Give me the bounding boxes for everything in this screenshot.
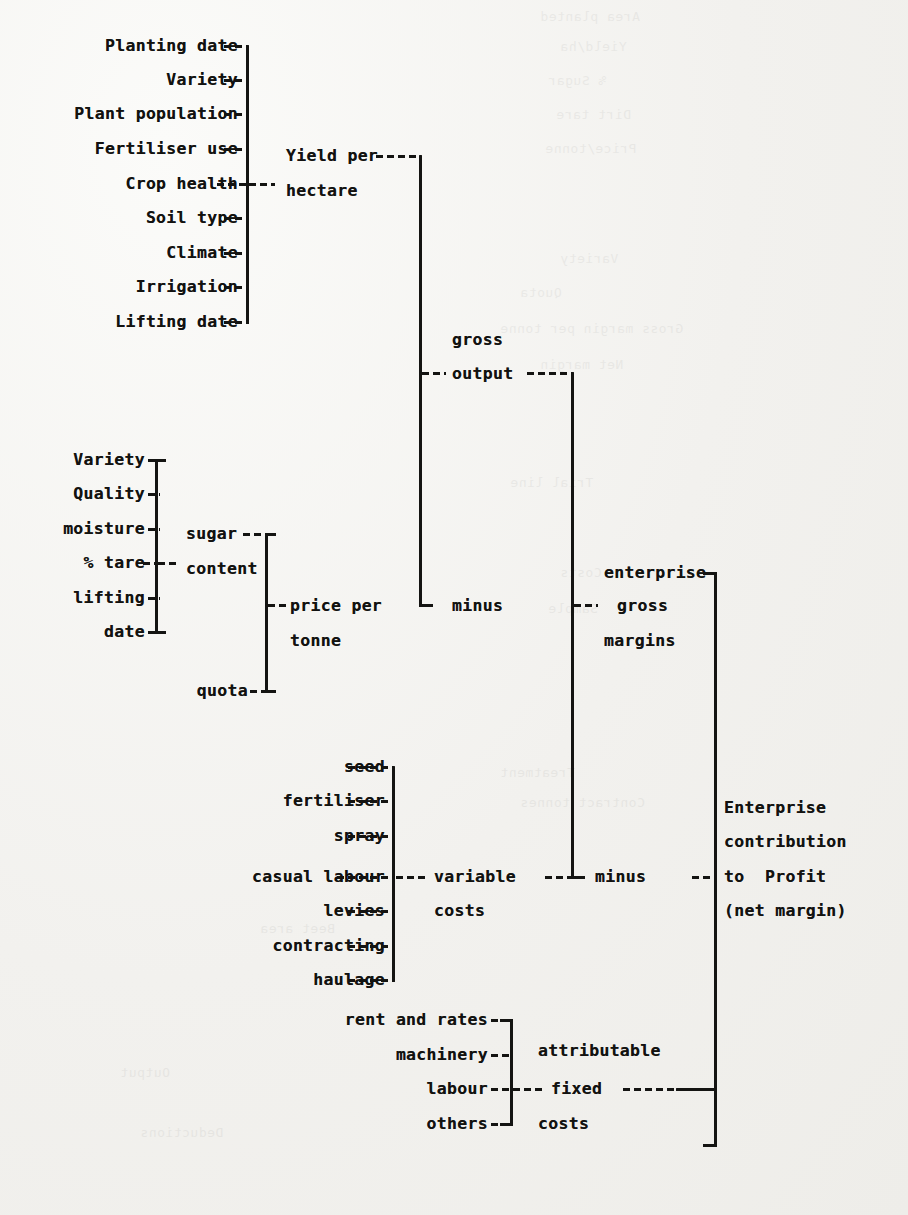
- corner-fixed-top: [500, 1019, 513, 1022]
- node-fertiliser-use: Fertiliser use: [95, 139, 238, 159]
- bracket-price-inputs: [265, 533, 268, 693]
- ghost-line: Area planted: [540, 4, 640, 30]
- node-costs-fixed: costs: [538, 1114, 589, 1134]
- corner-gross-output-bottom: [571, 876, 585, 879]
- node-variable: variable: [434, 867, 516, 887]
- node-rent-and-rates: rent and rates: [345, 1010, 488, 1030]
- bracket-net-margin: [714, 572, 717, 1147]
- ghost-line: Variety: [560, 246, 618, 272]
- leader-gross-output-out: [527, 372, 573, 375]
- ghost-line: Gross margin per tonne: [500, 316, 683, 342]
- node-tonne: tonne: [290, 631, 341, 651]
- node-price-per: price per: [290, 596, 382, 616]
- leader-fixed-to-net-margin: [623, 1088, 683, 1091]
- node-enterprise: enterprise: [604, 563, 706, 583]
- leader-irrigation: [224, 286, 248, 289]
- corner-price-bottom: [265, 690, 276, 693]
- diagram-page: Area planted Yield/ha % Sugar Dirt tare …: [0, 0, 908, 1215]
- node-quality: Quality: [73, 484, 145, 504]
- node-plant-population: Plant population: [74, 104, 238, 124]
- leader-yield-per-out: [376, 155, 421, 158]
- leader-haulage: [348, 979, 394, 982]
- leader-enterprise-gm-in: [574, 604, 598, 607]
- corner-quality-bottom: [155, 631, 166, 634]
- node-irrigation: Irrigation: [136, 277, 238, 297]
- leader-seed: [348, 766, 394, 769]
- spine-gross-output-to-minus: [571, 372, 574, 879]
- node-machinery: machinery: [396, 1045, 488, 1065]
- node-minus-lower: minus: [595, 867, 646, 887]
- corner-net-margin-top: [703, 572, 717, 575]
- spine-yield-to-gross-output: [419, 155, 422, 607]
- node-variety-quality: Variety: [73, 450, 145, 470]
- leader-price-bracket-out: [268, 604, 290, 607]
- node-net-margin-line-1: Enterprise: [724, 798, 826, 818]
- leader-sugar-content-out: [243, 533, 267, 536]
- connector-fixed-to-spine: [676, 1088, 716, 1091]
- node-planting-date: Planting date: [105, 36, 238, 56]
- leader-net-margin-out: [692, 876, 716, 879]
- corner-quality-top: [155, 459, 166, 462]
- ghost-line: Costs: [560, 560, 602, 586]
- node-date: date: [104, 622, 145, 642]
- node-minus-upper: minus: [452, 596, 503, 616]
- node-net-margin-line-2: contribution: [724, 832, 847, 852]
- node-labour: labour: [427, 1079, 488, 1099]
- leader-fixed-bracket-out: [513, 1088, 545, 1091]
- ghost-line: Output: [120, 1060, 170, 1086]
- ghost-line: Trial line: [510, 470, 593, 496]
- ghost-line: Treatment: [500, 760, 575, 786]
- node-net-margin-line-4: (net margin): [724, 901, 847, 921]
- leader-planting-date: [224, 45, 248, 48]
- node-sugar: sugar: [186, 524, 237, 544]
- leader-variable-costs-out: [396, 876, 428, 879]
- ghost-line: Contract tonnes: [520, 790, 645, 816]
- node-attributable: attributable: [538, 1041, 661, 1061]
- leader-lifting: [148, 597, 160, 600]
- leader-spray: [348, 835, 394, 838]
- bracket-quality-factors: [155, 459, 158, 634]
- leader-gross-output-in: [422, 372, 446, 375]
- leader-variable-to-minus: [545, 876, 571, 879]
- corner-yield-bottom: [419, 604, 433, 607]
- leader-plant-population: [224, 113, 248, 116]
- ghost-line: Dirt tare: [556, 102, 631, 128]
- node-lifting-date: Lifting date: [115, 312, 238, 332]
- bracket-fixed-costs: [510, 1019, 513, 1126]
- leader-levies: [348, 910, 394, 913]
- leader-fertiliser: [348, 800, 394, 803]
- node-yield-per: Yield per: [286, 146, 378, 166]
- leader-yield-bracket-out: [249, 183, 275, 186]
- leader-quality: [148, 493, 160, 496]
- corner-price-top: [265, 533, 276, 536]
- ghost-line: Price/tonne: [545, 136, 637, 162]
- node-net-margin-line-3: to Profit: [724, 867, 826, 887]
- leader-lifting-date: [224, 321, 248, 324]
- node-quota: quota: [197, 681, 248, 701]
- node-margins: margins: [604, 631, 676, 651]
- node-gross-2: gross: [617, 596, 668, 616]
- leader-moisture: [148, 528, 160, 531]
- leader-climate: [224, 252, 248, 255]
- bracket-variable-costs: [392, 766, 395, 982]
- corner-fixed-bottom: [500, 1123, 513, 1126]
- leader-soil-type: [224, 217, 248, 220]
- leader-contracting: [348, 945, 394, 948]
- leader-casual-labour: [337, 876, 394, 879]
- node-percent-tare: % tare: [84, 553, 145, 573]
- leader-quality-bracket-out: [158, 562, 180, 565]
- ghost-line: % Sugar: [548, 68, 606, 94]
- node-costs-variable: costs: [434, 901, 485, 921]
- ghost-line: Yield/ha: [560, 34, 627, 60]
- node-hectare: hectare: [286, 181, 358, 201]
- leader-fertiliser-use: [224, 148, 248, 151]
- node-others: others: [427, 1114, 488, 1134]
- ghost-line: Deductions: [140, 1120, 223, 1146]
- node-lifting: lifting: [73, 588, 145, 608]
- node-output: output: [452, 364, 513, 384]
- node-content: content: [186, 559, 258, 579]
- corner-net-margin-bottom: [703, 1144, 717, 1147]
- node-moisture: moisture: [63, 519, 145, 539]
- node-gross-1: gross: [452, 330, 503, 350]
- node-fixed: fixed: [551, 1079, 602, 1099]
